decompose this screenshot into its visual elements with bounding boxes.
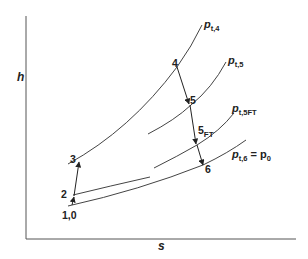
state-label-2: 2 (61, 188, 67, 200)
state-label-4: 4 (172, 57, 178, 69)
isobar-label-pt4: pt,4 (203, 18, 220, 33)
isobar-pt2 (73, 177, 150, 195)
x-axis-label: s (158, 239, 165, 253)
isobar-label-pt5: pt,5 (227, 54, 244, 69)
isobar-pt5ft (154, 113, 234, 168)
process-5-5ft (190, 105, 196, 144)
state-label-3: 3 (70, 153, 76, 165)
isobar-pt4 (68, 25, 202, 164)
y-axis-label: h (17, 70, 24, 84)
process-4-5 (177, 67, 189, 104)
isobar-pt6 (68, 140, 246, 206)
process-10-2 (72, 197, 74, 205)
process-2-3 (74, 162, 79, 196)
state-label-5ft: 5FT (198, 124, 214, 139)
hs-diagram: h s 1,0 2 3 4 5 5FT 6 pt,4 pt,5 pt,5FT p… (0, 0, 308, 259)
process-5ft-6 (197, 145, 203, 165)
state-label-6: 6 (205, 163, 211, 175)
isobar-label-pt5ft: pt,5FT (231, 102, 257, 117)
state-label-10: 1,0 (62, 209, 77, 221)
isobar-label-pt6: pt,6 = p0 (231, 148, 271, 163)
state-label-5: 5 (190, 94, 196, 106)
